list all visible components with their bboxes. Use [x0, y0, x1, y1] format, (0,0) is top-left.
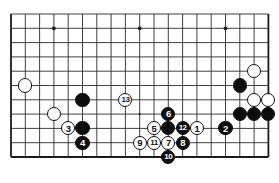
- move-stone-4: 4: [75, 136, 89, 150]
- move-number: 12: [179, 124, 187, 132]
- stone-black: [75, 121, 89, 135]
- move-number: 11: [150, 139, 157, 147]
- star-point: [138, 26, 142, 30]
- move-number: 1: [194, 124, 199, 134]
- move-stone-7: 7: [161, 136, 175, 150]
- move-number: 6: [166, 109, 171, 119]
- star-point: [224, 26, 228, 30]
- move-stone-2: 2: [218, 121, 232, 135]
- move-stone-8: 8: [176, 136, 190, 150]
- move-number: 13: [121, 96, 129, 104]
- move-number: 3: [66, 124, 71, 134]
- stone-white: [18, 78, 32, 92]
- stone-black: [75, 93, 89, 107]
- move-number: 9: [137, 138, 142, 148]
- stone-white: [247, 93, 261, 107]
- move-number: 8: [180, 138, 185, 148]
- move-number: 10: [164, 153, 172, 161]
- stone-black: [233, 78, 247, 92]
- stone-black: [233, 107, 247, 121]
- star-point: [52, 26, 56, 30]
- move-number: 5: [152, 124, 157, 134]
- move-number: 2: [223, 124, 228, 134]
- move-number: 4: [80, 138, 85, 148]
- move-number: 7: [166, 138, 171, 148]
- stone-white: [47, 107, 61, 121]
- move-stone-9: 9: [133, 136, 147, 150]
- move-stone-11: 11: [147, 136, 161, 150]
- go-board-diagram: 12345678910111213: [0, 0, 279, 183]
- star-point: [139, 113, 141, 115]
